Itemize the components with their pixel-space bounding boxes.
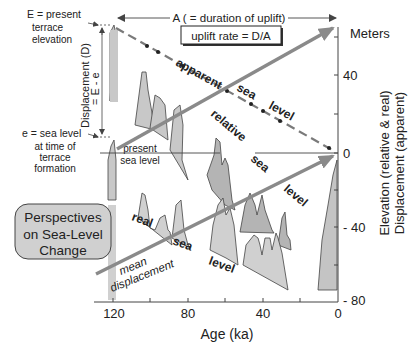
real-sea-label: sea — [171, 234, 195, 254]
title-box: Perspectives on Sea-Level Change — [15, 204, 111, 259]
displacement-annotation: E = present terrace elevation Displaceme… — [22, 8, 110, 174]
y-axis-label-1: Elevation (relative & real) — [377, 90, 392, 235]
uplift-rate-label: uplift rate = D/A — [191, 30, 271, 42]
present-sea-level-label-1: present — [123, 143, 157, 154]
apparent-label: apparent — [174, 55, 225, 92]
x-axis-label: Age (ka) — [201, 326, 254, 342]
duration-label: A ( = duration of uplift) — [173, 12, 286, 24]
y-tick-0: 0 — [343, 146, 350, 161]
y-axis-units: Meters — [350, 26, 390, 41]
apparent-sea-label: sea — [235, 80, 260, 102]
E-label-3: elevation — [32, 34, 72, 45]
e-label-2: at time of — [34, 141, 75, 152]
x-tick-0: 0 — [334, 306, 341, 321]
x-axis: 120 80 40 0 Age (ka) — [94, 298, 342, 342]
x-tick-80: 80 — [181, 306, 195, 321]
sea-level-perspectives-diagram: present sea level E = present terrace el… — [0, 0, 414, 355]
y-tick-40: 40 — [343, 68, 357, 83]
title-line-3: Change — [39, 243, 86, 258]
y-tick-neg40: - 40 — [343, 220, 365, 235]
title-line-2: on Sea-Level — [23, 227, 103, 242]
relative-label: relative — [208, 107, 249, 145]
x-tick-40: 40 — [256, 306, 270, 321]
duration-of-uplift: A ( = duration of uplift) — [118, 12, 336, 24]
displacement-label-2: = E - e — [89, 72, 101, 105]
E-label-2: terrace — [32, 22, 64, 33]
present-sea-level-label-2: sea level — [120, 155, 159, 166]
apparent-level-label: level — [267, 98, 297, 123]
e-label-4: formation — [34, 163, 76, 174]
y-tick-neg80: - 80 — [343, 293, 365, 308]
relative-level-label: level — [281, 182, 310, 210]
relative-sea-label: sea — [248, 152, 273, 176]
uplift-rate-box: uplift rate = D/A — [181, 26, 283, 46]
e-label-1: e = sea level — [22, 127, 81, 139]
y-axis: Meters 40 0 - 40 - 80 Elevation (relativ… — [334, 26, 407, 308]
title-line-1: Perspectives — [24, 210, 102, 225]
E-label-1: E = present — [27, 8, 81, 20]
real-label: real — [130, 210, 155, 230]
e-label-3: terrace — [39, 152, 71, 163]
x-tick-120: 120 — [103, 306, 125, 321]
y-axis-label-2: Displacement (apparent) — [392, 92, 407, 234]
